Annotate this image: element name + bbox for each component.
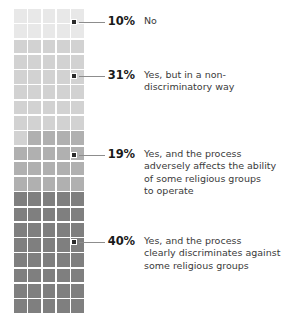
- waffle-cell: [28, 101, 41, 115]
- waffle-cell: [14, 55, 27, 69]
- waffle-cell: [28, 85, 41, 99]
- leader-line-19: [79, 155, 105, 156]
- waffle-cell: [43, 101, 56, 115]
- waffle-cell: [71, 269, 84, 283]
- waffle-cell: [57, 223, 70, 237]
- waffle-cell: [14, 162, 27, 176]
- waffle-cell: [28, 116, 41, 130]
- waffle-cell: [71, 208, 84, 222]
- marker-dot-31: [71, 73, 77, 79]
- waffle-cell: [57, 70, 70, 84]
- waffle-cell: [14, 131, 27, 145]
- waffle-cell: [57, 269, 70, 283]
- callout-label-adversely-affects: Yes, and the process adversely affects t…: [144, 148, 283, 197]
- waffle-cell: [28, 299, 41, 313]
- waffle-cell: [43, 223, 56, 237]
- waffle-cell: [57, 24, 70, 38]
- waffle-cell: [28, 223, 41, 237]
- waffle-cell: [43, 299, 56, 313]
- callout-adversely-affects: 19% Yes, and the process adversely affec…: [105, 148, 283, 197]
- waffle-cell: [14, 269, 27, 283]
- waffle-cell: [28, 253, 41, 267]
- waffle-cell: [43, 208, 56, 222]
- waffle-cell: [57, 147, 70, 161]
- waffle-cell: [57, 253, 70, 267]
- waffle-cell: [28, 55, 41, 69]
- waffle-cell: [71, 85, 84, 99]
- waffle-cell: [28, 192, 41, 206]
- waffle-cell: [43, 192, 56, 206]
- waffle-cell: [14, 284, 27, 298]
- waffle-cell: [14, 116, 27, 130]
- waffle-cell: [14, 9, 27, 23]
- waffle-cell: [57, 85, 70, 99]
- waffle-cell: [57, 9, 70, 23]
- waffle-cell: [43, 253, 56, 267]
- waffle-cell: [14, 253, 27, 267]
- waffle-cell: [57, 192, 70, 206]
- waffle-cell: [43, 9, 56, 23]
- waffle-cell: [28, 40, 41, 54]
- waffle-cell: [71, 223, 84, 237]
- waffle-cell: [14, 192, 27, 206]
- callout-label-no: No: [144, 15, 283, 27]
- waffle-chart: 10% No 31% Yes, but in a non- discrimina…: [0, 0, 283, 328]
- waffle-cell: [14, 299, 27, 313]
- waffle-cell: [57, 208, 70, 222]
- waffle-cell: [71, 24, 84, 38]
- waffle-cell: [14, 24, 27, 38]
- waffle-cell: [28, 238, 41, 252]
- waffle-cell: [43, 55, 56, 69]
- leader-line-40: [79, 242, 105, 243]
- waffle-cell: [57, 238, 70, 252]
- callout-label-clearly-discriminates: Yes, and the process clearly discriminat…: [144, 235, 283, 272]
- waffle-cell: [43, 162, 56, 176]
- waffle-cell: [71, 40, 84, 54]
- callout-nondiscriminatory: 31% Yes, but in a non- discriminatory wa…: [105, 69, 283, 94]
- leader-line-31: [79, 76, 105, 77]
- waffle-cell: [43, 147, 56, 161]
- waffle-cell: [28, 147, 41, 161]
- waffle-cell: [71, 116, 84, 130]
- waffle-cell: [43, 269, 56, 283]
- waffle-cell: [43, 40, 56, 54]
- waffle-cell: [14, 238, 27, 252]
- waffle-cell: [57, 299, 70, 313]
- waffle-cell: [14, 101, 27, 115]
- waffle-cell: [28, 177, 41, 191]
- waffle-cell: [28, 131, 41, 145]
- waffle-cell: [43, 116, 56, 130]
- waffle-cell: [71, 299, 84, 313]
- waffle-cell: [43, 284, 56, 298]
- waffle-cell: [57, 55, 70, 69]
- waffle-cell: [14, 223, 27, 237]
- waffle-cell: [14, 177, 27, 191]
- callout-percent-clearly-discriminates: 40%: [105, 235, 135, 248]
- waffle-cell: [43, 24, 56, 38]
- waffle-cell: [14, 208, 27, 222]
- waffle-cell: [28, 24, 41, 38]
- waffle-cell: [28, 208, 41, 222]
- waffle-cell: [57, 162, 70, 176]
- waffle-cell: [71, 284, 84, 298]
- waffle-cell: [28, 162, 41, 176]
- callout-clearly-discriminates: 40% Yes, and the process clearly discrim…: [105, 235, 283, 272]
- waffle-cell: [14, 85, 27, 99]
- callout-percent-adversely-affects: 19%: [105, 148, 135, 161]
- waffle-cell: [71, 55, 84, 69]
- waffle-cell: [43, 70, 56, 84]
- callout-label-nondiscriminatory: Yes, but in a non- discriminatory way: [144, 69, 283, 94]
- callout-no: 10% No: [105, 15, 283, 28]
- marker-dot-40: [71, 239, 77, 245]
- waffle-cell: [57, 177, 70, 191]
- waffle-cell: [57, 284, 70, 298]
- waffle-cell: [14, 70, 27, 84]
- waffle-cell: [57, 40, 70, 54]
- waffle-cell: [71, 101, 84, 115]
- leader-line-10: [79, 22, 105, 23]
- waffle-cell: [43, 131, 56, 145]
- waffle-cell: [43, 177, 56, 191]
- waffle-cell: [43, 238, 56, 252]
- waffle-cell: [71, 131, 84, 145]
- waffle-cell: [28, 9, 41, 23]
